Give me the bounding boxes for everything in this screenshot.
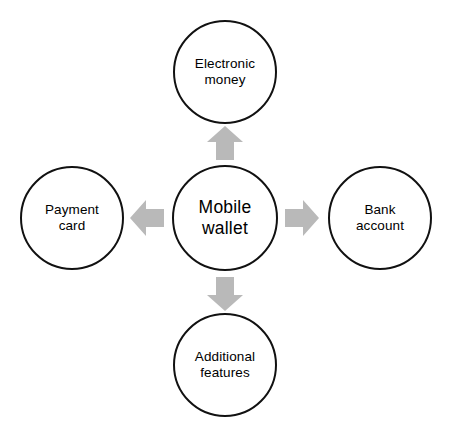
node-label-bank-account: Bank account [350, 202, 410, 235]
arrow-down-icon [207, 277, 243, 311]
node-bank-account: Bank account [328, 166, 432, 270]
node-label-mobile-wallet: Mobile wallet [193, 197, 258, 240]
node-mobile-wallet: Mobile wallet [172, 165, 278, 271]
diagram-canvas: Electronic money Payment card Bank accou… [0, 0, 454, 433]
arrow-right-icon [285, 200, 319, 236]
node-additional-features: Additional features [173, 313, 277, 417]
arrow-left-icon [130, 200, 164, 236]
arrow-up-icon [207, 126, 243, 160]
node-electronic-money: Electronic money [173, 20, 277, 124]
node-payment-card: Payment card [20, 166, 124, 270]
node-label-additional-features: Additional features [189, 349, 261, 382]
node-label-payment-card: Payment card [39, 202, 105, 235]
node-label-electronic-money: Electronic money [189, 56, 261, 89]
